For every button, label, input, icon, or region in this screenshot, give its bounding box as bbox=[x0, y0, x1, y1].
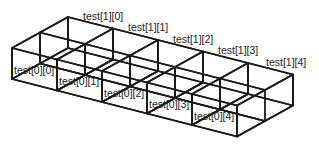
label-test-1-3: test[1][3] bbox=[218, 44, 258, 56]
label-test-0-2: test[0][2] bbox=[104, 87, 144, 99]
label-test-0-1: test[0][1] bbox=[59, 75, 99, 87]
label-test-0-3: test[0][3] bbox=[149, 98, 189, 110]
label-test-1-0: test[1][0] bbox=[83, 10, 123, 22]
label-test-0-0: test[0][0] bbox=[14, 64, 54, 76]
label-test-1-2: test[1][2] bbox=[173, 33, 213, 45]
array-diagram: test[0][0] test[0][1] test[0][2] test[0]… bbox=[0, 0, 319, 150]
box-faces bbox=[12, 17, 293, 137]
label-test-1-1: test[1][1] bbox=[128, 21, 168, 33]
label-test-0-4: test[0][4] bbox=[194, 110, 234, 122]
label-test-1-4: test[1][4] bbox=[266, 56, 306, 68]
